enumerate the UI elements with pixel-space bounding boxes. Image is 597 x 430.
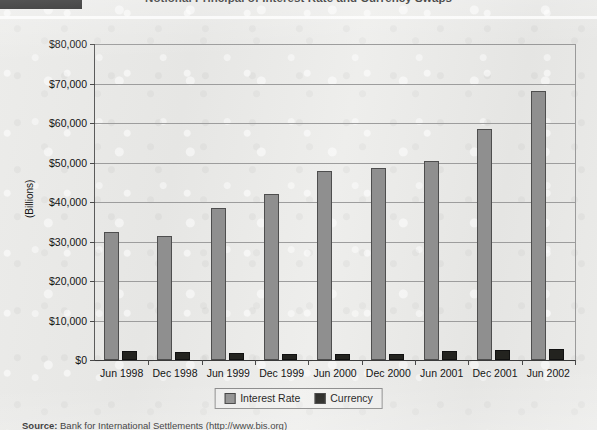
legend-label-interest-rate: Interest Rate (240, 392, 300, 404)
y-axis-label: $50,000 (49, 157, 87, 169)
y-axis-label: $10,000 (49, 315, 87, 327)
legend-item-interest-rate: Interest Rate (224, 392, 300, 404)
chart-area: (Billions) $0$10,000$20,000$30,000$40,00… (22, 28, 582, 400)
x-axis-tick (308, 360, 309, 365)
x-axis-label: Dec 2001 (473, 367, 518, 379)
x-axis-tick (522, 360, 523, 365)
x-axis-tick (202, 360, 203, 365)
bar-group (308, 44, 361, 360)
x-axis-tick (362, 360, 363, 365)
bar-group (148, 44, 201, 360)
x-axis-tick (575, 360, 576, 365)
x-axis-tick (255, 360, 256, 365)
bar-group (415, 44, 468, 360)
bar-interest-rate (477, 129, 492, 360)
bar-currency (389, 354, 404, 360)
bar-currency (229, 353, 244, 360)
title-underline (0, 16, 597, 19)
y-axis-tick (90, 360, 95, 361)
bar-interest-rate (317, 171, 332, 360)
bar-group (468, 44, 521, 360)
bar-interest-rate (531, 91, 546, 360)
source-text: Bank for International Settlements (60, 420, 203, 430)
plot-frame-top (95, 44, 575, 45)
bar-currency (122, 351, 137, 360)
y-axis-label: $20,000 (49, 275, 87, 287)
source-url: (http://www.bis.org) (206, 420, 287, 430)
source-label: Source: (22, 420, 57, 430)
bar-group (362, 44, 415, 360)
chart-page: Notional Principal of Interest Rate and … (0, 0, 597, 430)
bar-interest-rate (424, 161, 439, 360)
x-axis-label: Jun 2000 (313, 367, 356, 379)
x-axis-label: Jun 1999 (207, 367, 250, 379)
bar-interest-rate (104, 232, 119, 360)
x-axis-tick (148, 360, 149, 365)
y-axis-label: $0 (75, 354, 87, 366)
x-axis-label: Dec 1998 (153, 367, 198, 379)
bar-group (95, 44, 148, 360)
chart-title: Notional Principal of Interest Rate and … (0, 0, 597, 8)
bar-interest-rate (211, 208, 226, 360)
bar-currency (175, 352, 190, 360)
legend-swatch-interest-rate (224, 393, 235, 404)
plot-frame-right (575, 44, 576, 360)
bar-currency (495, 350, 510, 360)
x-axis-label: Dec 1999 (259, 367, 304, 379)
bar-currency (549, 349, 564, 360)
bar-currency (442, 351, 457, 360)
legend-item-currency: Currency (314, 392, 373, 404)
y-axis-label: $80,000 (49, 38, 87, 50)
bar-interest-rate (264, 194, 279, 360)
y-axis-label: $60,000 (49, 117, 87, 129)
chart-legend: Interest Rate Currency (214, 388, 383, 409)
bar-currency (335, 354, 350, 360)
plot-area: $0$10,000$20,000$30,000$40,000$50,000$60… (94, 44, 575, 361)
y-axis-label: $70,000 (49, 78, 87, 90)
bar-group (255, 44, 308, 360)
bar-group (202, 44, 255, 360)
x-axis-label: Jun 2001 (420, 367, 463, 379)
y-axis-label: $40,000 (49, 196, 87, 208)
x-axis-tick (468, 360, 469, 365)
bar-interest-rate (157, 236, 172, 360)
x-axis-label: Jun 1998 (100, 367, 143, 379)
x-axis-label: Jun 2002 (527, 367, 570, 379)
bar-interest-rate (371, 168, 386, 360)
x-axis-tick (415, 360, 416, 365)
x-axis-label: Dec 2000 (366, 367, 411, 379)
y-axis-title: (Billions) (24, 180, 35, 218)
source-note: Source: Bank for International Settlemen… (22, 420, 287, 430)
y-axis-label: $30,000 (49, 236, 87, 248)
legend-swatch-currency (314, 393, 325, 404)
bar-currency (282, 354, 297, 360)
legend-label-currency: Currency (330, 392, 373, 404)
bar-group (522, 44, 575, 360)
